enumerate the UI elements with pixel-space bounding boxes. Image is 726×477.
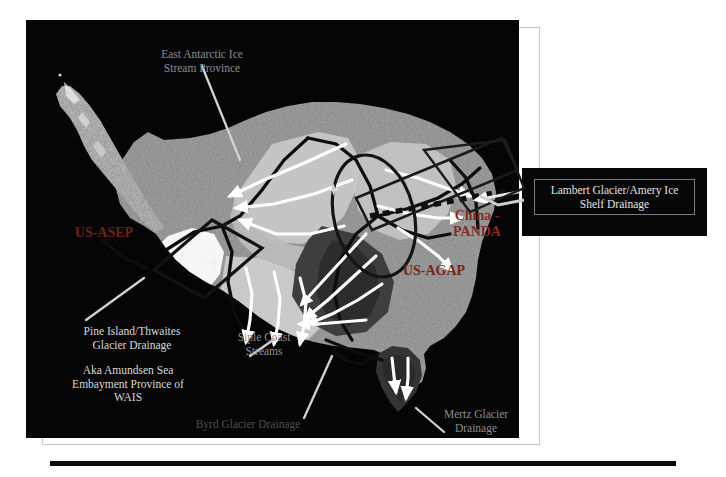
antarctica-map-graphic xyxy=(26,20,519,438)
callout-label: Lambert Glacier/Amery Ice Shelf Drainage xyxy=(551,183,679,211)
lambert-glacier-callout-box[interactable]: Lambert Glacier/Amery Ice Shelf Drainage xyxy=(522,168,707,236)
antarctica-map-figure[interactable]: East Antarctic Ice Stream Province Pine … xyxy=(26,20,519,438)
callout-border: Lambert Glacier/Amery Ice Shelf Drainage xyxy=(534,179,695,215)
bottom-horizontal-rule xyxy=(50,461,676,466)
